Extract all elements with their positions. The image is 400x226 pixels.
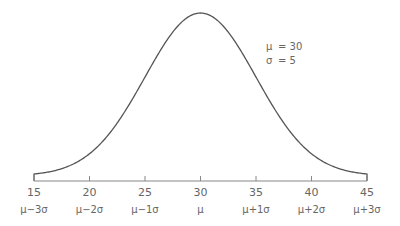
mu-value: = 30 — [278, 41, 302, 52]
x-axis-labels: 15μ−3σ20μ−2σ25μ−1σ30μ35μ+1σ40μ+2σ45μ+3σ — [20, 186, 381, 215]
sigma-label: μ+2σ — [298, 204, 326, 215]
x-tick-label: 15 — [27, 186, 41, 199]
normal-curve — [34, 13, 367, 181]
x-axis — [34, 176, 367, 181]
sigma-value: = 5 — [278, 55, 296, 66]
mu-symbol: μ — [266, 41, 273, 52]
x-tick-label: 20 — [83, 186, 97, 199]
normal-distribution-chart: 15μ−3σ20μ−2σ25μ−1σ30μ35μ+1σ40μ+2σ45μ+3σ … — [0, 0, 400, 226]
x-tick-label: 30 — [194, 186, 208, 199]
sigma-label: μ−2σ — [76, 204, 104, 215]
x-tick-label: 35 — [249, 186, 263, 199]
parameter-annotation: μ = 30 σ = 5 — [266, 41, 302, 66]
sigma-symbol: σ — [266, 55, 273, 66]
sigma-label: μ+1σ — [242, 204, 270, 215]
sigma-label: μ — [197, 204, 204, 215]
sigma-label: μ−1σ — [131, 204, 159, 215]
sigma-label: μ−3σ — [20, 204, 48, 215]
sigma-label: μ+3σ — [353, 204, 381, 215]
x-tick-label: 40 — [305, 186, 319, 199]
x-tick-label: 45 — [360, 186, 374, 199]
x-tick-label: 25 — [138, 186, 152, 199]
